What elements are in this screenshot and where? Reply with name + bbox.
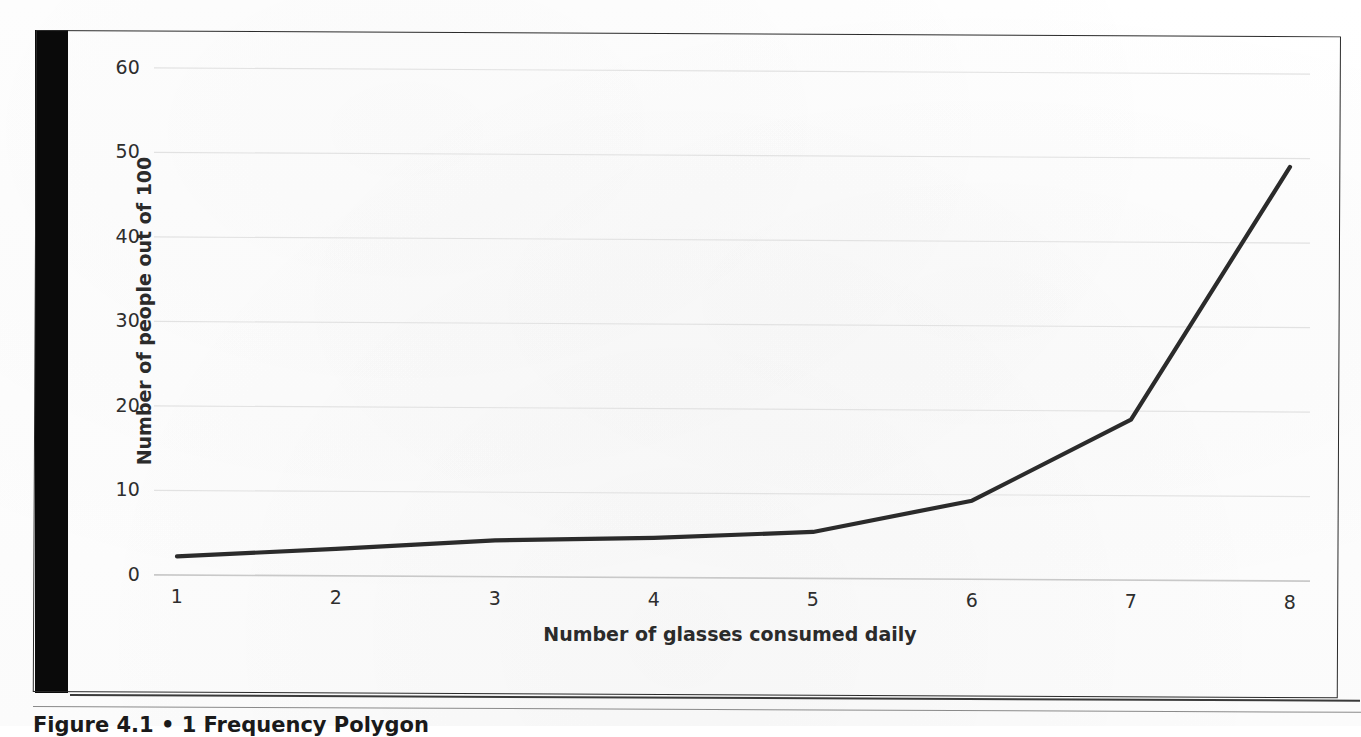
- x-tick-label: 6: [952, 589, 992, 611]
- x-tick-label: 7: [1111, 590, 1151, 612]
- figure-caption: Figure 4.1 • 1 Frequency Polygon: [33, 713, 429, 737]
- x-axis-title: Number of glasses consumed daily: [170, 623, 1290, 645]
- x-tick-label: 5: [793, 588, 833, 610]
- x-tick-label: 3: [475, 587, 515, 609]
- y-tick-label: 60: [100, 56, 140, 78]
- x-tick-label: 8: [1270, 591, 1310, 613]
- x-tick-label: 4: [634, 588, 674, 610]
- caption-rule-lower: [33, 706, 1361, 713]
- y-axis-title: Number of people out of 100: [133, 101, 155, 521]
- x-tick-label: 1: [157, 585, 197, 607]
- y-tick-label: 0: [100, 563, 140, 585]
- x-tick-label: 2: [316, 586, 356, 608]
